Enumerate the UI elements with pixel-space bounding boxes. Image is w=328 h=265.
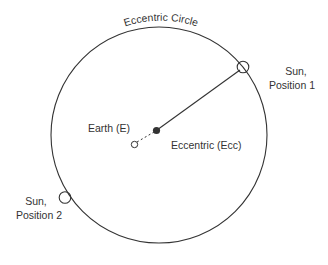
sun1-label-line1: Sun,	[285, 65, 307, 77]
eccentric-label: Eccentric (Ecc)	[171, 139, 242, 151]
earth-point	[131, 141, 137, 147]
sun1-label-line2: Position 1	[269, 79, 315, 91]
eccentric-point	[153, 127, 160, 134]
eccentric-circle-diagram: Eccentric Circle Earth (E) Eccentric (Ec…	[0, 0, 328, 265]
earth-label: Earth (E)	[88, 122, 130, 134]
sun2-label-line2: Position 2	[16, 209, 62, 221]
radius-line	[157, 70, 240, 130]
eccentric-circle	[51, 27, 267, 243]
sun2-label-line1: Sun,	[25, 195, 47, 207]
sun-position-2	[59, 192, 71, 204]
circle-title: Eccentric Circle	[122, 11, 200, 29]
earth-ecc-dashed-line	[137, 132, 154, 142]
